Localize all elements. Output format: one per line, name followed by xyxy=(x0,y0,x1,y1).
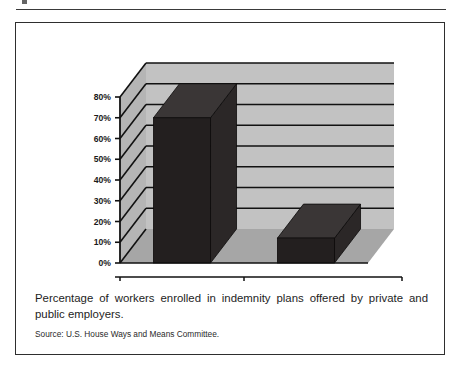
y-axis-tick-label: 10% xyxy=(94,237,112,247)
figure-source: Source: U.S. House Ways and Means Commit… xyxy=(35,329,428,340)
y-axis-tick-label: 60% xyxy=(94,134,112,144)
bar-front-face xyxy=(153,118,210,263)
y-axis-tick-label: 40% xyxy=(94,175,112,185)
figure-container: 0%10%20%30%40%50%60%70%80%1988: 70%1998:… xyxy=(0,0,462,378)
chart-canvas: 0%10%20%30%40%50%60%70%80%1988: 70%1998:… xyxy=(16,23,444,281)
y-axis-tick-label: 50% xyxy=(94,154,112,164)
bar-front-face xyxy=(277,238,334,263)
y-axis-tick-label: 20% xyxy=(94,217,112,227)
y-axis-tick-label: 0% xyxy=(99,258,112,268)
top-horizontal-rule xyxy=(16,9,446,10)
figure-caption: Percentage of workers enrolled in indemn… xyxy=(35,291,428,322)
bar-chart: 0%10%20%30%40%50%60%70%80%1988: 70%1998:… xyxy=(16,23,444,281)
y-axis-tick-label: 30% xyxy=(94,196,112,206)
y-axis-tick-label: 80% xyxy=(94,92,112,102)
bar-1988[interactable]: 1988: 70% xyxy=(153,84,236,263)
y-axis-tick-label: 70% xyxy=(94,113,112,123)
page-mark xyxy=(22,0,27,4)
figure-box: 0%10%20%30%40%50%60%70%80%1988: 70%1998:… xyxy=(15,22,445,355)
